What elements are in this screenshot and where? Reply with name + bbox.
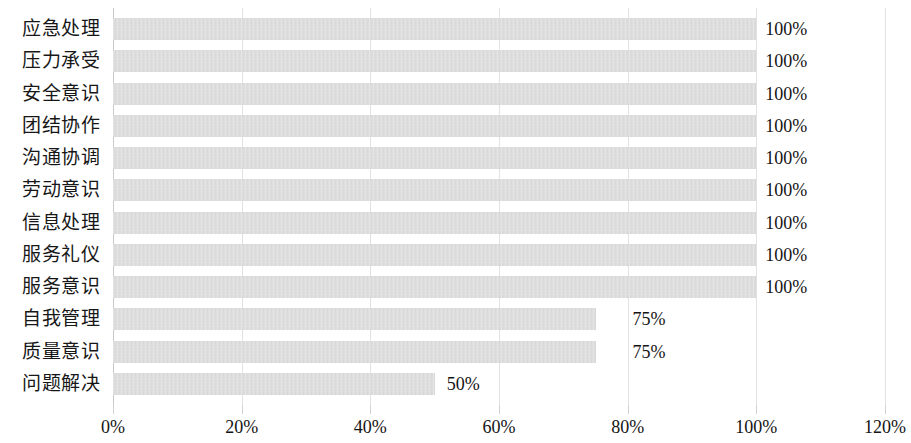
axis-tick-label: 40% bbox=[354, 414, 387, 440]
bar-value-label: 50% bbox=[447, 373, 480, 393]
bar-value-label: 100% bbox=[765, 51, 807, 71]
bar-value-label: 100% bbox=[765, 19, 807, 39]
category-label: 沟通协调 bbox=[0, 147, 100, 169]
bar-row[interactable]: 50% bbox=[113, 373, 885, 395]
bar-value-label: 100% bbox=[765, 212, 807, 232]
bar-chart: 应急处理压力承受安全意识团结协作沟通协调劳动意识信息处理服务礼仪服务意识自我管理… bbox=[0, 0, 911, 443]
axis-tick-label: 80% bbox=[611, 414, 644, 440]
category-label: 服务意识 bbox=[0, 276, 100, 298]
axis-tick-label: 20% bbox=[225, 414, 258, 440]
bar-value-label: 100% bbox=[765, 180, 807, 200]
bar[interactable] bbox=[113, 18, 756, 40]
bar[interactable] bbox=[113, 212, 756, 234]
bar-row[interactable]: 100% bbox=[113, 147, 885, 169]
bar-value-label: 100% bbox=[765, 244, 807, 264]
bar-value-label: 75% bbox=[633, 309, 666, 329]
axis-tick-mark bbox=[113, 405, 114, 414]
category-label: 劳动意识 bbox=[0, 179, 100, 201]
category-label: 信息处理 bbox=[0, 212, 100, 234]
axis-tick-mark bbox=[242, 405, 243, 414]
axis-tick-mark bbox=[885, 405, 886, 414]
bar-row[interactable]: 100% bbox=[113, 212, 885, 234]
category-label: 团结协作 bbox=[0, 115, 100, 137]
category-label: 压力承受 bbox=[0, 50, 100, 72]
bar[interactable] bbox=[113, 50, 756, 72]
bar-row[interactable]: 100% bbox=[113, 179, 885, 201]
bar-row[interactable]: 100% bbox=[113, 18, 885, 40]
bar[interactable] bbox=[113, 308, 596, 330]
category-label: 安全意识 bbox=[0, 83, 100, 105]
category-label: 应急处理 bbox=[0, 18, 100, 40]
bar-row[interactable]: 100% bbox=[113, 276, 885, 298]
axis-tick-mark bbox=[370, 405, 371, 414]
bar-value-label: 100% bbox=[765, 277, 807, 297]
bar[interactable] bbox=[113, 147, 756, 169]
bar[interactable] bbox=[113, 373, 435, 395]
category-label: 服务礼仪 bbox=[0, 244, 100, 266]
axis-tick-mark bbox=[628, 405, 629, 414]
axis-tick-label: 100% bbox=[735, 414, 777, 440]
bar-row[interactable]: 100% bbox=[113, 50, 885, 72]
axis-tick-mark bbox=[756, 405, 757, 414]
bar-row[interactable]: 100% bbox=[113, 244, 885, 266]
bar-value-label: 100% bbox=[765, 115, 807, 135]
bar-value-label: 100% bbox=[765, 83, 807, 103]
category-label: 问题解决 bbox=[0, 373, 100, 395]
bar-value-label: 100% bbox=[765, 148, 807, 168]
bar[interactable] bbox=[113, 341, 596, 363]
bar-row[interactable]: 100% bbox=[113, 83, 885, 105]
value-axis: 0%20%40%60%80%100%120% bbox=[0, 414, 911, 443]
category-label: 质量意识 bbox=[0, 341, 100, 363]
plot-area: 100%100%100%100%100%100%100%100%100%75%7… bbox=[113, 8, 885, 405]
gridline bbox=[885, 8, 886, 405]
bar[interactable] bbox=[113, 244, 756, 266]
category-label: 自我管理 bbox=[0, 308, 100, 330]
bar[interactable] bbox=[113, 179, 756, 201]
axis-tick-label: 120% bbox=[864, 414, 906, 440]
axis-tick-label: 60% bbox=[483, 414, 516, 440]
category-axis: 应急处理压力承受安全意识团结协作沟通协调劳动意识信息处理服务礼仪服务意识自我管理… bbox=[0, 0, 105, 405]
bar[interactable] bbox=[113, 276, 756, 298]
bar-value-label: 75% bbox=[633, 341, 666, 361]
axis-tick-mark bbox=[499, 405, 500, 414]
bar[interactable] bbox=[113, 83, 756, 105]
bar-row[interactable]: 75% bbox=[113, 308, 885, 330]
axis-tick-label: 0% bbox=[101, 414, 125, 440]
bar-row[interactable]: 75% bbox=[113, 341, 885, 363]
bar[interactable] bbox=[113, 115, 756, 137]
bar-row[interactable]: 100% bbox=[113, 115, 885, 137]
